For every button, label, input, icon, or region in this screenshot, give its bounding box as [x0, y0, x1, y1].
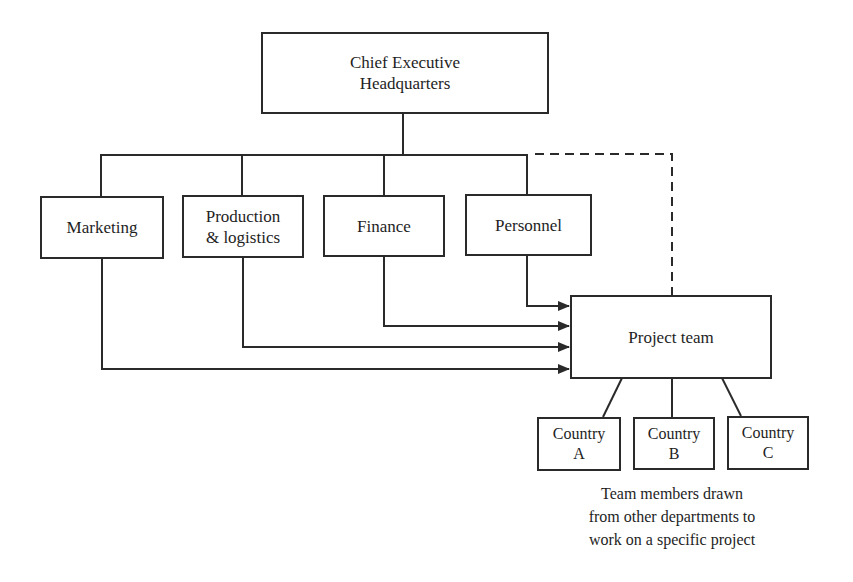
finance-arrow [384, 256, 569, 326]
marketing-box: Marketing [40, 196, 164, 259]
caption-line2: from other departments to [552, 505, 792, 528]
country-c-link [722, 378, 741, 416]
caption-line1: Team members drawn [552, 482, 792, 505]
production-label-line1: Production [206, 206, 281, 227]
country-a-link [603, 378, 622, 417]
country-c-line2: C [763, 443, 774, 463]
personnel-label: Personnel [495, 215, 562, 236]
country-b-line1: Country [648, 424, 700, 444]
headquarters-box: Chief Executive Headquarters [261, 32, 549, 114]
production-arrow [243, 257, 569, 347]
caption-line3: work on a specific project [552, 528, 792, 551]
personnel-box: Personnel [465, 194, 592, 256]
country-a-line2: A [573, 444, 585, 464]
marketing-arrow [102, 258, 569, 369]
marketing-label: Marketing [67, 217, 138, 238]
country-b-line2: B [669, 444, 680, 464]
finance-label: Finance [357, 216, 411, 237]
hq-line1: Chief Executive [350, 52, 460, 73]
country-a-box: Country A [537, 417, 621, 471]
country-c-line1: Country [742, 423, 794, 443]
project-team-label: Project team [628, 327, 713, 348]
country-b-box: Country B [633, 417, 715, 470]
production-label-line2: & logistics [206, 227, 280, 248]
project-team-caption: Team members drawn from other department… [552, 482, 792, 551]
project-team-box: Project team [570, 295, 772, 379]
org-chart-diagram: Chief Executive Headquarters Marketing P… [0, 0, 853, 582]
personnel-arrow [527, 255, 569, 306]
hq-line2: Headquarters [360, 73, 451, 94]
finance-box: Finance [323, 195, 445, 257]
country-a-line1: Country [553, 424, 605, 444]
production-logistics-box: Production & logistics [182, 195, 304, 258]
country-c-box: Country C [727, 416, 809, 470]
